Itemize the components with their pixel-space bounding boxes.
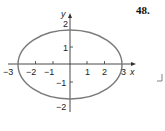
y-axis-label: y bbox=[60, 9, 66, 19]
corner-mark bbox=[157, 74, 162, 81]
x-tick-label: 1 bbox=[85, 67, 90, 77]
x-tick-label: 2 bbox=[102, 67, 107, 77]
x-tick-label: 3 bbox=[121, 67, 126, 77]
x-axis-arrow-icon bbox=[131, 62, 136, 66]
ellipse-graph: −3 −2 −1 1 2 3 x y 2 1 −1 −2 bbox=[0, 0, 165, 131]
y-tick-label: 2 bbox=[63, 19, 68, 29]
x-tick-label: −2 bbox=[26, 67, 36, 77]
x-tick-label: −3 bbox=[3, 67, 13, 77]
y-tick-label: 1 bbox=[63, 43, 68, 53]
y-axis-arrow-icon bbox=[68, 13, 72, 18]
x-axis-label: x bbox=[129, 67, 135, 77]
x-tick-label: −1 bbox=[44, 67, 54, 77]
y-tick-label: −2 bbox=[56, 102, 66, 112]
y-tick-label: −1 bbox=[56, 78, 66, 88]
